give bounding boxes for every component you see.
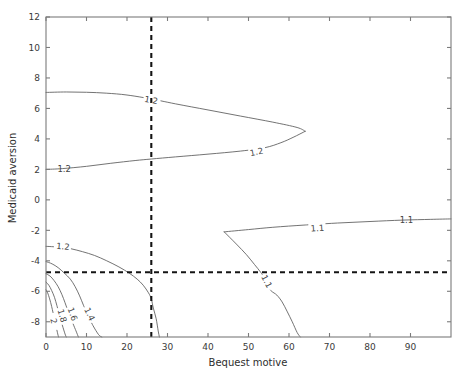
contour-label-1-1: 1.1	[310, 223, 324, 234]
x-tick-label: 70	[324, 342, 336, 352]
y-axis-title: Medicaid aversion	[7, 133, 18, 224]
contour-label-1-2: 1.2	[144, 94, 159, 106]
contour-label-1-4: 1.4	[82, 306, 97, 323]
contour-label-1-1: 1.1	[259, 273, 274, 290]
x-tick-label: 20	[121, 342, 133, 352]
x-tick-label: 40	[202, 342, 214, 352]
contour-label-1-2: 1.2	[56, 241, 70, 252]
contour-line-1-2	[46, 246, 159, 337]
contour-line-1-1	[224, 219, 451, 232]
contour-labels-group: 1.21.21.21.21.41.61.821.11.11.1	[48, 94, 413, 325]
y-tick-label: -2	[31, 226, 40, 236]
y-tick-label: 10	[29, 43, 41, 53]
y-tick-label: -6	[31, 286, 40, 296]
y-tick-label: -4	[31, 256, 40, 266]
y-tick-label: -8	[31, 317, 40, 327]
contour-label-1-2: 1.2	[249, 146, 264, 159]
x-tick-label: 30	[162, 342, 174, 352]
x-tick-label: 0	[43, 342, 49, 352]
x-tick-label: 50	[243, 342, 255, 352]
tick-labels-group: 0102030405060708090-8-6-4-2024681012	[29, 12, 417, 352]
contour-line-1-1	[224, 232, 300, 337]
contour-label-1-2: 1.2	[57, 164, 71, 174]
y-tick-label: 4	[34, 134, 40, 144]
y-tick-label: 2	[34, 165, 40, 175]
x-tick-label: 60	[283, 342, 295, 352]
x-tick-label: 80	[364, 342, 376, 352]
plot-canvas: 0102030405060708090-8-6-4-2024681012 1.2…	[0, 0, 473, 381]
y-tick-label: 6	[34, 104, 40, 114]
x-axis-title: Bequest motive	[209, 357, 288, 368]
contour-line-1-2	[46, 131, 305, 169]
x-tick-label: 90	[405, 342, 417, 352]
y-tick-label: 0	[34, 195, 40, 205]
y-tick-label: 8	[34, 73, 40, 83]
contour-plot-figure: 0102030405060708090-8-6-4-2024681012 1.2…	[0, 0, 473, 381]
axes-group	[46, 17, 451, 337]
contour-lines-group	[46, 92, 451, 337]
contour-line-1-2	[46, 92, 305, 131]
y-tick-label: 12	[29, 12, 40, 22]
contour-label-1-1: 1.1	[400, 215, 414, 225]
x-tick-label: 10	[81, 342, 93, 352]
axis-frame	[46, 17, 451, 337]
reference-lines-group	[46, 17, 451, 337]
contour-label-2: 2	[48, 317, 59, 324]
